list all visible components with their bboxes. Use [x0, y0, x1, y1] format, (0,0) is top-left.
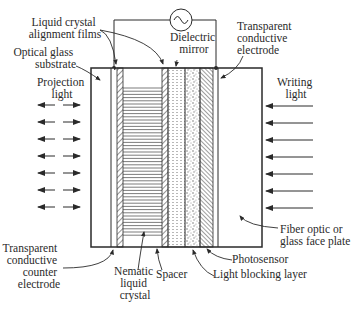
label-light-blocking: Light blocking layer	[213, 268, 307, 281]
label-optical-glass: Optical glass substrate	[13, 46, 76, 70]
projection-light-arrows	[38, 105, 80, 207]
alignment-film-left	[117, 68, 123, 247]
label-dielectric-mirror: Dielectric mirror	[170, 31, 218, 55]
dielectric-mirror	[168, 68, 185, 247]
nematic-lc-layer	[123, 88, 162, 235]
device-stack	[91, 68, 262, 247]
light-blocking-layer	[185, 68, 200, 247]
label-writing-light: Writing light	[277, 76, 315, 101]
label-lc-alignment-films: Liquid crystal alignment films	[29, 16, 102, 41]
photosensor-layer	[200, 68, 213, 247]
label-transparent-electrode: Transparent conductive electrode	[237, 20, 294, 56]
ac-source-icon	[170, 9, 192, 31]
writing-light-arrows	[266, 106, 313, 208]
alignment-film-right	[162, 68, 168, 247]
label-counter-electrode: Transparent conductive counter electrode	[3, 242, 60, 290]
label-photosensor: Photosensor	[232, 253, 288, 265]
label-spacer: Spacer	[156, 268, 187, 281]
label-face-plate: Fiber optic or glass face plate	[280, 223, 350, 248]
lclv-diagram: Liquid crystal alignment films Optical g…	[0, 0, 355, 310]
label-nematic-lc: Nematic liquid crystal	[114, 265, 156, 302]
label-projection-light: Projection light	[37, 76, 87, 101]
